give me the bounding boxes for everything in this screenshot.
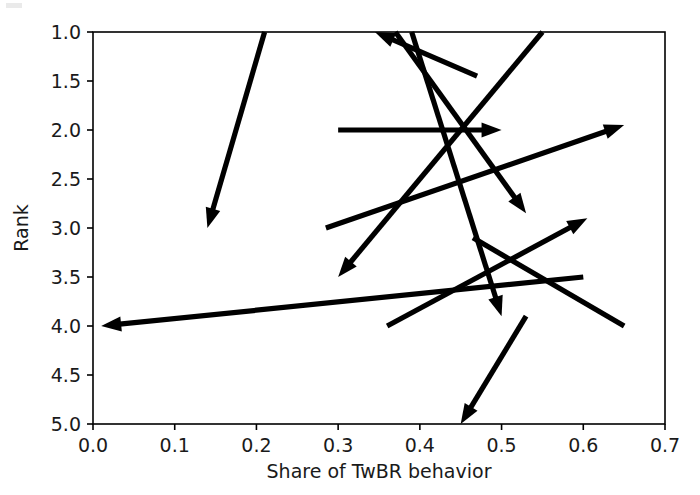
arrow-shaft	[117, 277, 583, 324]
arrow-head	[461, 403, 478, 424]
y-tick-label: 2.0	[51, 119, 81, 141]
rank-transition-arrow	[338, 123, 501, 138]
y-tick-label: 4.0	[51, 315, 81, 337]
rank-transition-arrow	[387, 218, 587, 326]
y-tick-label: 3.5	[51, 266, 81, 288]
rank-transition-arrow	[473, 238, 624, 326]
arrow-shaft	[348, 32, 542, 265]
y-tick-label: 4.5	[51, 364, 81, 386]
y-axis-ticks: 1.01.52.02.53.03.54.04.55.0	[51, 21, 93, 435]
x-tick-label: 0.6	[568, 434, 598, 456]
arrow-head	[566, 218, 587, 234]
x-tick-label: 0.5	[486, 434, 516, 456]
x-tick-label: 0.1	[160, 434, 190, 456]
rank-transition-plot: 0.00.10.20.30.40.50.60.7 1.01.52.02.53.0…	[0, 0, 700, 495]
arrow-head	[603, 125, 624, 139]
x-tick-label: 0.3	[323, 434, 353, 456]
arrow-head	[101, 317, 122, 332]
arrow-head	[206, 207, 220, 228]
rank-transition-arrow	[101, 277, 583, 331]
arrow-head	[488, 295, 502, 316]
y-axis-label: Rank	[10, 204, 32, 251]
y-tick-label: 3.0	[51, 217, 81, 239]
y-tick-label: 5.0	[51, 413, 81, 435]
x-tick-label: 0.0	[78, 434, 108, 456]
rank-transition-arrow	[461, 316, 526, 424]
arrow-head	[482, 123, 502, 138]
rank-transition-arrow	[338, 32, 542, 277]
y-tick-label: 1.0	[51, 21, 81, 43]
x-tick-label: 0.4	[405, 434, 435, 456]
arrow-layer	[101, 32, 624, 424]
y-tick-label: 1.5	[51, 70, 81, 92]
arrow-shaft	[390, 38, 477, 76]
x-tick-label: 0.7	[650, 434, 680, 456]
y-tick-label: 2.5	[51, 168, 81, 190]
arrow-shaft	[473, 238, 624, 326]
arrow-shaft	[469, 316, 526, 410]
x-axis-ticks: 0.00.10.20.30.40.50.60.7	[78, 424, 680, 456]
chart-figure: 0.00.10.20.30.40.50.60.7 1.01.52.02.53.0…	[0, 0, 700, 495]
x-tick-label: 0.2	[241, 434, 271, 456]
rank-transition-arrow	[206, 32, 265, 228]
arrow-shaft	[212, 32, 265, 213]
arrow-head	[375, 32, 396, 47]
x-axis-label: Share of TwBR behavior	[267, 460, 492, 482]
